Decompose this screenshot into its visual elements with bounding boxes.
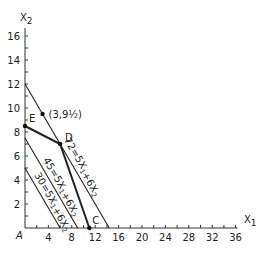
y-tick-label: 16 [7, 31, 20, 42]
plot-area: 4812162024283236246810121416X1X2A72=5X1+… [0, 0, 262, 255]
vertex-point [58, 142, 62, 146]
x-axis-label: X1 [244, 214, 257, 228]
vertex-point [23, 124, 27, 128]
y-tick-label: 6 [14, 151, 20, 162]
x-tick-label: 4 [45, 232, 51, 243]
y-tick-label: 4 [14, 175, 20, 186]
point-label: (3,9½) [49, 109, 82, 120]
y-axis-label: X2 [20, 12, 33, 26]
y-tick-label: 14 [7, 55, 20, 66]
origin-label: A [15, 230, 23, 241]
x-tick-label: 8 [69, 232, 75, 243]
vertex-point [87, 226, 91, 230]
x-tick-label: 20 [136, 232, 149, 243]
point-label: D [65, 132, 73, 143]
point-label: E [29, 113, 35, 124]
lp-diagram: 4812162024283236246810121416X1X2A72=5X1+… [0, 0, 262, 255]
y-tick-label: 10 [7, 103, 20, 114]
x-tick-label: 16 [112, 232, 125, 243]
vertex-point [40, 112, 44, 116]
x-tick-label: 28 [182, 232, 195, 243]
x-tick-label: 12 [89, 232, 102, 243]
y-tick-label: 8 [14, 127, 20, 138]
point-label: C [92, 215, 99, 226]
x-tick-label: 32 [206, 232, 219, 243]
x-tick-label: 36 [229, 232, 242, 243]
y-tick-label: 2 [14, 199, 20, 210]
x-tick-label: 24 [159, 232, 172, 243]
y-tick-label: 12 [7, 79, 20, 90]
